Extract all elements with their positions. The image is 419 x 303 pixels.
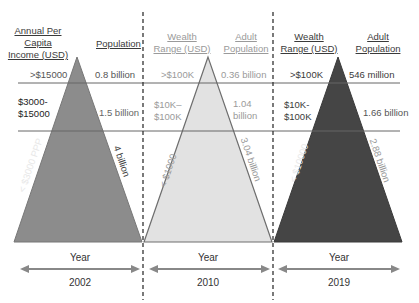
tier-pop-mid-2010: 1.04 billion bbox=[233, 98, 257, 122]
tier-range-high-2010: >$100K bbox=[161, 69, 194, 81]
tier-range-mid-2002: $3000- $15000 bbox=[18, 96, 50, 120]
range-line: $15000 bbox=[18, 108, 50, 120]
tier-pop-high-2019: 546 million bbox=[349, 69, 394, 81]
header-line: Range (USD) bbox=[146, 43, 218, 55]
range-line: $3000- bbox=[18, 96, 50, 108]
header-line: Range (USD) bbox=[278, 43, 340, 55]
range-line: $100K bbox=[284, 111, 311, 123]
range-line: $10K- bbox=[284, 99, 311, 111]
tier-pop-mid-2019: 1.66 billion bbox=[363, 107, 408, 119]
header-line: Population bbox=[221, 43, 271, 55]
header-wealth-2010: Wealth Range (USD) bbox=[146, 31, 218, 55]
tier-pop-mid-2002: 1.5 billion bbox=[99, 107, 139, 119]
tier-pop-high-2010: 0.36 billion bbox=[221, 69, 266, 81]
header-line: Wealth bbox=[146, 31, 218, 43]
year-label-2019: Year bbox=[289, 252, 389, 263]
pop-line: 1.04 bbox=[233, 98, 257, 110]
range-line: $100K bbox=[154, 111, 181, 123]
header-wealth-2019: Wealth Range (USD) bbox=[278, 31, 340, 55]
header-line: Income (USD) bbox=[4, 49, 72, 61]
header-line: Annual Per bbox=[4, 25, 72, 37]
year-arrows bbox=[20, 265, 400, 273]
year-label-2002: Year bbox=[30, 252, 130, 263]
tier-range-high-2002: >$15000 bbox=[30, 69, 67, 81]
year-value-2010: 2010 bbox=[158, 277, 258, 288]
header-line: Adult bbox=[354, 31, 402, 43]
header-line: Capita bbox=[4, 37, 72, 49]
tier-range-mid-2010: $10K– $100K bbox=[154, 99, 181, 123]
range-line: $10K– bbox=[154, 99, 181, 111]
tier-range-mid-2019: $10K- $100K bbox=[284, 99, 311, 123]
year-value-2019: 2019 bbox=[289, 277, 389, 288]
header-income-2002: Annual Per Capita Income (USD) bbox=[4, 25, 72, 61]
tier-range-high-2019: >$100K bbox=[290, 69, 323, 81]
header-population-2002: Population bbox=[96, 38, 141, 50]
tier-pop-high-2002: 0.8 billion bbox=[95, 69, 135, 81]
header-adult-pop-2010: Adult Population bbox=[221, 31, 271, 55]
header-line: Adult bbox=[221, 31, 271, 43]
year-value-2002: 2002 bbox=[30, 277, 130, 288]
year-label-2010: Year bbox=[158, 252, 258, 263]
header-line: Population bbox=[354, 43, 402, 55]
header-adult-pop-2019: Adult Population bbox=[354, 31, 402, 55]
pop-line: billion bbox=[233, 110, 257, 122]
header-line: Wealth bbox=[278, 31, 340, 43]
pyramid-2019 bbox=[274, 57, 402, 242]
